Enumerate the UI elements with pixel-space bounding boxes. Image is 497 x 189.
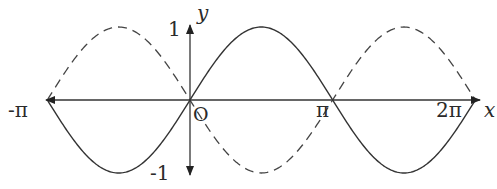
x-tick-pi: π	[316, 98, 329, 122]
x-tick-2pi: 2π	[436, 98, 462, 122]
sine-diagram: y x O -π π 2π 1 -1	[0, 0, 497, 189]
x-tick-neg-pi: -π	[8, 98, 28, 122]
y-tick-neg-1: -1	[150, 161, 169, 185]
origin-label: O	[193, 103, 209, 125]
y-tick-1: 1	[168, 17, 181, 41]
x-axis-label: x	[484, 98, 495, 122]
y-axis-label: y	[196, 1, 209, 25]
